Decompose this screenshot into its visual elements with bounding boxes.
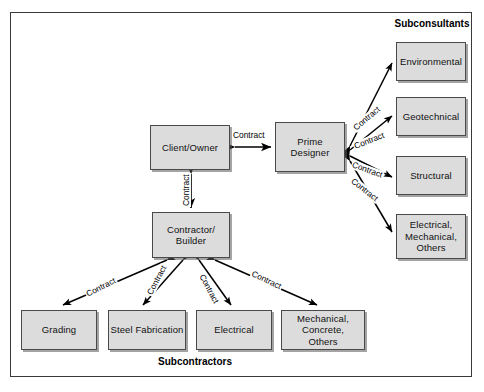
node-client-owner-label: Client/Owner [162, 142, 218, 154]
node-electrical-mechanical-others-line2: Mechanical, [405, 231, 457, 243]
node-steel-fabrication-label: Steel Fabrication [111, 324, 184, 336]
node-contractor-builder-line2: Builder [176, 235, 206, 247]
node-environmental-label: Environmental [400, 56, 462, 68]
node-geotechnical[interactable]: Geotechnical [396, 97, 466, 136]
node-client-owner[interactable]: Client/Owner [150, 125, 230, 170]
subcontractors-group-title: Subcontractors [140, 356, 250, 367]
node-structural-label: Structural [410, 170, 452, 182]
node-contractor-builder-line1: Contractor/ [167, 224, 215, 236]
node-mechanical-concrete-others-line1: Mechanical, [297, 313, 349, 325]
node-grading[interactable]: Grading [21, 310, 97, 350]
node-electrical-label: Electrical [214, 324, 254, 336]
node-electrical-mechanical-others[interactable]: Electrical, Mechanical, Others [396, 214, 466, 259]
node-structural[interactable]: Structural [396, 156, 466, 195]
edge-label-client-prime: Contract [232, 131, 266, 140]
edge-label-client-contractor: Contract [182, 173, 191, 207]
node-electrical-mechanical-others-line3: Others [416, 242, 445, 254]
node-contractor-builder[interactable]: Contractor/ Builder [152, 212, 230, 258]
node-prime-designer[interactable]: Prime Designer [275, 122, 345, 172]
node-electrical[interactable]: Electrical [196, 310, 272, 350]
node-steel-fabrication[interactable]: Steel Fabrication [108, 310, 186, 350]
diagram-canvas: Subconsultants Subcontractors Client/Own… [0, 0, 484, 392]
node-prime-designer-line1: Prime [297, 136, 322, 148]
node-prime-designer-line2: Designer [291, 147, 330, 159]
node-mechanical-concrete-others-line3: Others [308, 336, 337, 348]
node-environmental[interactable]: Environmental [396, 42, 466, 81]
node-mechanical-concrete-others-line2: Concrete, [302, 324, 344, 336]
subconsultants-group-title: Subconsultants [386, 18, 478, 29]
node-grading-label: Grading [42, 324, 77, 336]
node-geotechnical-label: Geotechnical [403, 111, 460, 123]
node-mechanical-concrete-others[interactable]: Mechanical, Concrete, Others [281, 310, 365, 350]
node-electrical-mechanical-others-line1: Electrical, [410, 219, 452, 231]
